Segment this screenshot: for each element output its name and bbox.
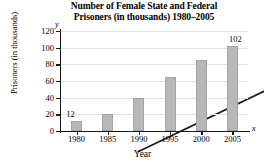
x-tick-label: 2005 [224, 134, 241, 144]
gridline [61, 48, 248, 49]
chart-title-line-2: Prisoners (in thousands) 1980–2005 [30, 12, 258, 23]
bar [71, 121, 82, 131]
y-axis-title: Prisoners (in thousands) [9, 1, 19, 105]
x-tick-mark [77, 131, 78, 135]
y-tick-mark [56, 64, 61, 65]
y-tick-label: 60 [46, 76, 55, 86]
y-tick-label: 0 [50, 126, 54, 136]
y-tick-mark [56, 98, 61, 99]
y-tick-label: 80 [46, 59, 55, 69]
y-tick-mark [56, 114, 61, 115]
gridline [61, 81, 248, 82]
x-tick-mark [232, 131, 233, 135]
y-tick-mark [56, 48, 61, 49]
bar-value-label: 102 [229, 34, 242, 44]
x-axis-title: Year [55, 149, 230, 159]
bar [227, 46, 238, 131]
x-tick-mark [201, 131, 202, 135]
x-tick-label: 1990 [130, 134, 147, 144]
y-tick-mark [56, 81, 61, 82]
y-tick-mark [56, 31, 61, 32]
y-axis-letter: y [55, 19, 59, 29]
chart-title: Number of Female State and Federal Priso… [30, 1, 258, 23]
y-tick-label: 120 [41, 26, 54, 36]
x-tick-label: 1980 [68, 134, 85, 144]
bar-value-label: 12 [66, 109, 75, 119]
gridline [61, 114, 248, 115]
x-tick-label: 2000 [193, 134, 210, 144]
chart-container: Number of Female State and Federal Priso… [0, 0, 264, 165]
y-tick-label: 100 [41, 43, 54, 53]
gridline [61, 98, 248, 99]
chart-title-line-1: Number of Female State and Federal [30, 1, 258, 12]
x-tick-mark [108, 131, 109, 135]
y-tick-label: 20 [46, 109, 55, 119]
gridline [61, 31, 248, 32]
bar [165, 77, 176, 131]
plot-area: 020406080100120 [61, 31, 248, 131]
x-tick-label: 1985 [99, 134, 116, 144]
y-tick-mark [56, 131, 61, 132]
x-tick-mark [139, 131, 140, 135]
bar [196, 60, 207, 131]
y-tick-label: 40 [46, 93, 55, 103]
bar [133, 98, 144, 131]
x-tick-label: 1995 [162, 134, 179, 144]
gridline [61, 64, 248, 65]
x-tick-mark [170, 131, 171, 135]
bar [102, 114, 113, 132]
